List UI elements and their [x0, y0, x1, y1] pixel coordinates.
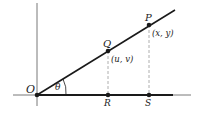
point-P — [147, 23, 152, 28]
point-O — [35, 93, 40, 98]
point-S — [147, 93, 152, 98]
label-P-coords: (x, y) — [152, 28, 174, 38]
point-Q — [106, 49, 111, 54]
label-theta: θ — [55, 82, 61, 92]
label-S: S — [145, 98, 151, 108]
label-Q-coords: (u, v) — [111, 54, 133, 64]
label-Q: Q — [103, 38, 111, 49]
angle-arc — [63, 79, 66, 95]
label-R: R — [103, 98, 111, 108]
point-R — [106, 93, 111, 98]
label-P: P — [144, 12, 152, 23]
label-O: O — [26, 83, 35, 96]
geometry-diagram: O θ Q (u, v) P (x, y) R S — [0, 0, 200, 114]
